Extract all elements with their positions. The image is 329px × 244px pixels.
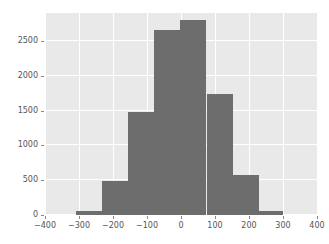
histogram-figure: 05001000150020002500 −400−300−200−100010…	[0, 0, 329, 244]
histogram-bar	[180, 20, 206, 215]
histogram-bar	[102, 181, 128, 215]
x-tick-label: 100	[195, 222, 235, 230]
histogram-bar	[76, 211, 102, 215]
histogram-bar	[233, 175, 259, 215]
y-tick-mark-4	[41, 76, 44, 77]
plot-area	[45, 13, 317, 215]
histogram-bars	[45, 13, 317, 215]
x-tick-label: −200	[93, 222, 133, 230]
y-tick-label: 1500	[18, 107, 38, 115]
y-tick-mark-1	[41, 180, 44, 181]
histogram-bar	[128, 112, 154, 215]
x-tick-label: 200	[229, 222, 269, 230]
histogram-bar	[154, 30, 180, 215]
y-tick-label: 1000	[18, 141, 38, 149]
x-tick-mark-0	[45, 216, 46, 219]
y-tick-mark-3	[41, 111, 44, 112]
x-tick-mark-2	[113, 216, 114, 219]
x-tick-mark-7	[283, 216, 284, 219]
x-tick-label: 400	[297, 222, 329, 230]
y-tick-mark-0	[41, 215, 44, 216]
x-tick-mark-1	[79, 216, 80, 219]
x-tick-mark-3	[147, 216, 148, 219]
x-tick-mark-4	[181, 216, 182, 219]
x-tick-label: −400	[25, 222, 65, 230]
x-tick-mark-8	[317, 216, 318, 219]
y-tick-mark-5	[41, 41, 44, 42]
histogram-bar	[207, 94, 233, 215]
x-tick-mark-6	[249, 216, 250, 219]
histogram-bar	[259, 211, 283, 215]
x-tick-label: 0	[161, 222, 201, 230]
x-tick-mark-5	[215, 216, 216, 219]
y-tick-mark-2	[41, 145, 44, 146]
x-tick-label: 300	[263, 222, 303, 230]
x-tick-label: −300	[59, 222, 99, 230]
y-tick-label: 2000	[18, 72, 38, 80]
y-tick-label: 0	[33, 211, 38, 219]
y-tick-label: 2500	[18, 37, 38, 45]
y-tick-label: 500	[23, 176, 38, 184]
x-tick-label: −100	[127, 222, 167, 230]
